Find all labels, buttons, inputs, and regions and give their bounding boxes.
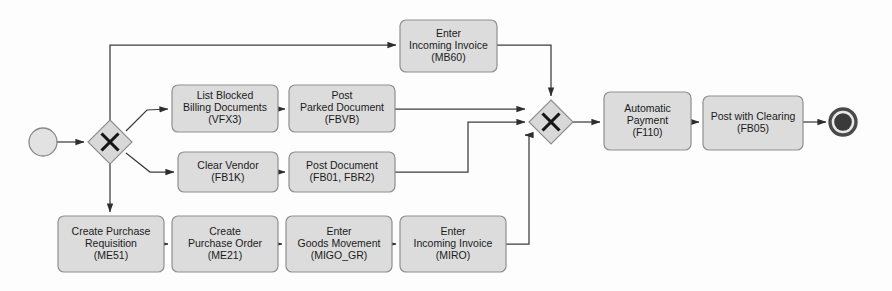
task-label-line: (FB05): [737, 122, 769, 134]
task-vfx3[interactable]: List BlockedBilling Documents(VFX3): [172, 85, 278, 132]
task-label-line: (F110): [632, 126, 662, 138]
task-label-line: (ME21): [208, 249, 242, 261]
node-layer: EnterIncoming Invoice(MB60)List BlockedB…: [29, 20, 856, 272]
task-label-line: (MIGO_GR): [311, 249, 368, 261]
sequence-flow-gw-split-to-fb1k: [126, 153, 174, 172]
task-fb05[interactable]: Post with Clearing(FB05): [703, 96, 803, 150]
task-label-line: (FB1K): [211, 171, 244, 183]
task-label-line: Create Purchase: [72, 225, 151, 237]
task-fb1k[interactable]: Clear Vendor(FB1K): [178, 152, 278, 192]
task-fbvb[interactable]: PostParked Document(FBVB): [289, 85, 395, 132]
task-label-line: Enter: [326, 225, 352, 237]
task-label-line: Post with Clearing: [711, 110, 796, 122]
task-label-line: Parked Document: [300, 101, 384, 113]
task-fb01[interactable]: Post Document(FB01, FBR2): [289, 152, 395, 192]
task-label-line: (FBVB): [325, 113, 359, 125]
end-event-end[interactable]: [830, 109, 856, 135]
sequence-flow-mb60-to-gw-join: [497, 45, 551, 96]
sequence-flow-gw-split-to-vfx3: [126, 109, 168, 131]
task-label-line: (ME51): [94, 249, 128, 261]
task-label-line: Incoming Invoice: [409, 39, 488, 51]
gateway-gw-split[interactable]: [88, 120, 132, 164]
task-label-line: (VFX3): [208, 113, 241, 125]
start-event-start[interactable]: [29, 128, 57, 156]
process-flow-svg: EnterIncoming Invoice(MB60)List BlockedB…: [0, 0, 892, 291]
task-label-line: Create: [209, 225, 241, 237]
task-label-line: Enter: [440, 225, 466, 237]
task-migo[interactable]: EnterGoods Movement(MIGO_GR): [286, 216, 392, 272]
task-label-line: List Blocked: [197, 89, 254, 101]
task-label-line: Incoming Invoice: [414, 237, 493, 249]
task-me21[interactable]: CreatePurchase Order(ME21): [172, 216, 278, 272]
task-label-line: Post: [331, 89, 352, 101]
task-f110[interactable]: AutomaticPayment(F110): [604, 92, 691, 150]
task-label-line: (MB60): [431, 51, 465, 63]
sequence-flow-miro-to-gw-join: [506, 135, 529, 244]
task-mb60[interactable]: EnterIncoming Invoice(MB60): [400, 20, 497, 72]
task-label-line: Payment: [627, 114, 669, 126]
task-miro[interactable]: EnterIncoming Invoice(MIRO): [400, 216, 506, 272]
task-label-line: (FB01, FBR2): [310, 171, 375, 183]
sequence-flow-fb01-to-gw-join: [395, 122, 525, 172]
task-label-line: Clear Vendor: [197, 159, 259, 171]
task-label-line: Billing Documents: [183, 101, 267, 113]
bpmn-diagram-canvas: EnterIncoming Invoice(MB60)List BlockedB…: [0, 0, 892, 291]
gateway-gw-join[interactable]: [529, 100, 573, 144]
task-label-line: Enter: [436, 27, 462, 39]
end-event-core-icon: [834, 113, 852, 131]
task-label-line: (MIRO): [436, 249, 470, 261]
start-event-circle-icon: [29, 128, 57, 156]
task-label-line: Goods Movement: [298, 237, 381, 249]
task-label-line: Automatic: [624, 102, 671, 114]
task-label-line: Purchase Order: [188, 237, 263, 249]
task-me51[interactable]: Create PurchaseRequisition(ME51): [58, 216, 164, 272]
task-label-line: Post Document: [306, 159, 378, 171]
task-label-line: Requisition: [85, 237, 137, 249]
